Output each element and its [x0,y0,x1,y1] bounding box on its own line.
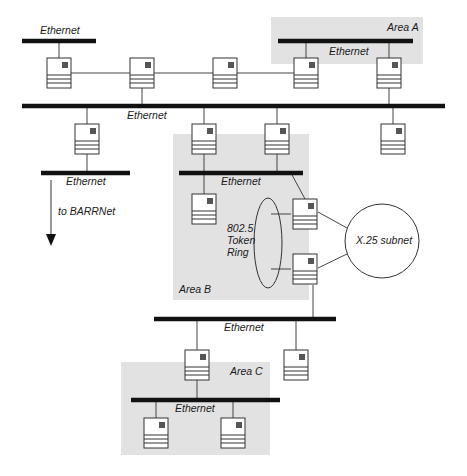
router-icon [265,124,289,154]
label-ethernet-backbone: Ethernet [127,109,168,121]
router-icon [185,350,209,380]
router-icon [144,418,168,448]
router-icon [293,199,317,229]
router-icon [377,58,401,88]
label-area-b: Area B [178,283,211,295]
router-icon [192,124,216,154]
router-icon [130,58,154,88]
router-icon [284,350,308,380]
network-diagram: Ethernet Ethernet Area A Ethernet Ethern… [0,0,467,476]
router-icon [221,418,245,448]
router-icon [294,58,318,88]
label-token-ring-3: Ring [227,246,249,258]
router-icon [213,58,237,88]
label-ethernet-lower: Ethernet [224,321,265,333]
router-icon [47,58,71,88]
label-ethernet-area-c: Ethernet [175,402,216,414]
router-icon [192,194,216,224]
label-ethernet-area-a: Ethernet [329,45,370,57]
label-ethernet-area-b: Ethernet [221,175,262,187]
label-x25-subnet: X.25 subnet [355,234,413,246]
label-ethernet-lower-left: Ethernet [66,175,107,187]
router-icon [381,124,405,154]
router-icon [293,254,317,284]
router-icon [75,124,99,154]
down-arrow-icon [46,234,56,246]
label-to-barrnet: to BARRNet [58,205,116,217]
label-ethernet-top-left: Ethernet [40,24,81,36]
label-area-a: Area A [386,21,419,33]
label-area-c: Area C [229,365,263,377]
label-token-ring-2: Token [227,234,255,246]
label-token-ring-1: 802.5 [227,222,253,234]
